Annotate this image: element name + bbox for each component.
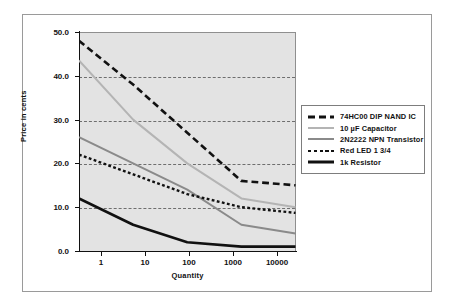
series-layer: [79, 32, 296, 251]
legend-label-capacitor: 10 µF Capacitor: [340, 124, 397, 133]
legend-item-red-led: Red LED 1 3/4: [307, 145, 420, 156]
y-tick-label-50: 50.0: [53, 28, 73, 37]
series-line: [79, 137, 296, 233]
x-tick-label-1: 1: [99, 258, 103, 267]
y-tick-label-40: 40.0: [53, 71, 73, 80]
legend-item-transistor: 2N2222 NPN Transistor: [307, 134, 420, 145]
legend-label-red-led: Red LED 1 3/4: [340, 146, 391, 155]
x-tick-label-10: 10: [141, 258, 150, 267]
chart-legend: 74HC00 DIP NAND IC 10 µF Capacitor 2N222…: [301, 105, 425, 174]
x-tick-1000: [233, 251, 234, 256]
x-axis-line: [78, 251, 297, 252]
series-line: [79, 198, 296, 246]
legend-item-resistor: 1k Resistor: [307, 157, 420, 168]
legend-swatch-transistor: [307, 134, 335, 144]
y-tick-label-0: 0.0: [58, 247, 73, 256]
x-tick-label-1000: 1000: [224, 258, 242, 267]
legend-item-nand-ic: 74HC00 DIP NAND IC: [307, 111, 420, 122]
legend-label-transistor: 2N2222 NPN Transistor: [340, 135, 423, 144]
x-tick-10000: [277, 251, 278, 256]
x-tick-10: [145, 251, 146, 256]
x-tick-label-10000: 10000: [266, 258, 288, 267]
x-tick-100: [189, 251, 190, 256]
legend-item-capacitor: 10 µF Capacitor: [307, 122, 420, 133]
legend-swatch-nand-ic: [307, 112, 335, 122]
y-tick-0: [75, 251, 79, 252]
legend-label-resistor: 1k Resistor: [340, 158, 381, 167]
x-tick-label-100: 100: [182, 258, 195, 267]
y-axis-label: Price in cents: [19, 90, 28, 142]
y-tick-label-10: 10.0: [53, 203, 73, 212]
legend-swatch-resistor: [307, 157, 335, 167]
chart-figure: 50.0 40.0 30.0 20.0 10.0 0.0 1 10 100 10…: [22, 14, 432, 292]
legend-swatch-red-led: [307, 146, 335, 156]
x-tick-1: [101, 251, 102, 256]
x-axis-label: Quantity: [79, 271, 296, 280]
legend-label-nand-ic: 74HC00 DIP NAND IC: [340, 112, 416, 121]
legend-swatch-capacitor: [307, 123, 335, 133]
y-tick-label-20: 20.0: [53, 159, 73, 168]
y-tick-label-30: 30.0: [53, 115, 73, 124]
